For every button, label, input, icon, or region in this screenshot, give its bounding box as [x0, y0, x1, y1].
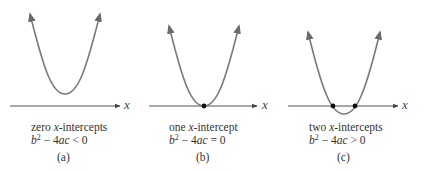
caption-a-suffix: -intercepts: [59, 121, 108, 133]
intercept-point-c-left: [331, 104, 336, 109]
disc-a-ac: ac: [59, 134, 70, 146]
parabola-c: [308, 32, 380, 114]
disc-a-mid: − 4: [41, 134, 59, 146]
sublabel-b: (b): [196, 151, 209, 163]
sublabel-a: (a): [57, 151, 70, 163]
disc-c-ac: ac: [337, 134, 348, 146]
caption-b-title: one x-intercept: [169, 121, 238, 134]
parabola-b: [169, 26, 239, 106]
disc-b-mid: − 4: [179, 134, 197, 146]
disc-b-rel: = 0: [208, 134, 226, 146]
caption-b-prefix: one: [169, 121, 188, 133]
disc-c-rel: > 0: [348, 134, 366, 146]
panel-b-graph: [149, 26, 257, 108]
caption-c-discriminant: b2 − 4ac > 0: [309, 134, 366, 147]
sublabel-c: (c): [337, 151, 350, 163]
axis-label-a: x: [124, 97, 130, 113]
axis-label-b: x: [262, 97, 268, 113]
axis-label-c: x: [402, 97, 408, 113]
parabola-a: [30, 14, 100, 94]
disc-b-ac: ac: [197, 134, 208, 146]
caption-b-suffix: -intercept: [194, 121, 238, 133]
panel-c-graph: [288, 32, 398, 114]
intercept-point-b: [202, 104, 207, 109]
caption-b-discriminant: b2 − 4ac = 0: [169, 134, 226, 147]
caption-a-title: zero x-intercepts: [31, 121, 107, 134]
intercept-point-c-right: [353, 104, 358, 109]
caption-c-suffix: -intercepts: [334, 121, 383, 133]
caption-c-prefix: two: [309, 121, 329, 133]
disc-a-rel: < 0: [70, 134, 88, 146]
caption-c-title: two x-intercepts: [309, 121, 383, 134]
panel-a-graph: [10, 14, 120, 106]
caption-a-discriminant: b2 − 4ac < 0: [31, 134, 88, 147]
disc-c-mid: − 4: [319, 134, 337, 146]
caption-a-prefix: zero: [31, 121, 54, 133]
